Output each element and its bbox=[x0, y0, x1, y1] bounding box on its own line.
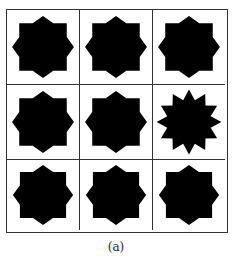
grid-cell-r1c2 bbox=[80, 10, 153, 85]
grid-cell-r1c3 bbox=[153, 10, 225, 85]
eight-point-star-icon bbox=[153, 160, 225, 230]
grid-cell-r3c3 bbox=[153, 160, 225, 230]
twelve-point-star-icon bbox=[153, 85, 225, 159]
grid-cell-r2c3 bbox=[153, 85, 225, 160]
grid-cell-r1c1 bbox=[7, 10, 80, 85]
eight-point-star-icon bbox=[80, 160, 152, 230]
eight-point-star-icon bbox=[7, 10, 79, 84]
star-grid bbox=[6, 9, 228, 233]
grid-cell-r3c2 bbox=[80, 160, 153, 230]
eight-point-star-icon bbox=[153, 10, 225, 84]
eight-point-star-icon bbox=[7, 85, 79, 159]
figure-caption: (a) bbox=[0, 240, 232, 254]
grid-cell-r2c2 bbox=[80, 85, 153, 160]
eight-point-star-icon bbox=[7, 160, 79, 230]
eight-point-star-icon bbox=[80, 85, 152, 159]
eight-point-star-icon bbox=[80, 10, 152, 84]
grid-cell-r2c1 bbox=[7, 85, 80, 160]
grid-cell-r3c1 bbox=[7, 160, 80, 230]
